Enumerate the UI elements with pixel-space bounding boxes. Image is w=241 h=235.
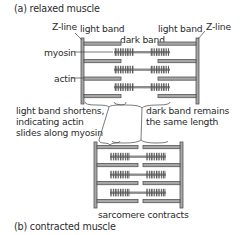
band-braces-contracted — [99, 140, 168, 145]
contracted-myosin-filaments — [110, 153, 166, 197]
band-braces-relaxed — [85, 102, 170, 108]
relaxed-leader-lines — [72, 31, 205, 78]
z-line-left — [81, 38, 84, 104]
z-line-right-contracted — [180, 142, 183, 208]
relaxed-myosin-filaments — [114, 48, 170, 91]
sarcomere-diagram — [0, 0, 241, 235]
z-line-right — [196, 38, 199, 104]
connector-lines — [99, 107, 142, 140]
relaxed-sarcomere — [81, 38, 199, 104]
z-line-left-contracted — [94, 142, 97, 208]
